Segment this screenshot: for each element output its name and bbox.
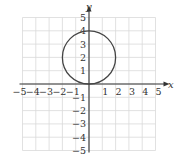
x-tick-label: 2 [116, 86, 122, 97]
x-tick-label: −3 [39, 86, 53, 97]
y-tick-label: −4 [72, 132, 86, 143]
x-tick-label: −5 [12, 86, 26, 97]
x-tick-label: 5 [155, 86, 161, 97]
x-tick-label: −4 [26, 86, 40, 97]
y-tick-label: −1 [72, 92, 86, 103]
y-tick-label: 1 [80, 65, 86, 76]
y-tick-label: 3 [80, 39, 86, 50]
y-tick-label: 2 [80, 52, 86, 63]
x-tick-label: 1 [102, 86, 108, 97]
coordinate-plane: −5−4−3−2−11234554321−1−2−3−4−5 x y [0, 0, 184, 161]
x-tick-label: 3 [129, 86, 135, 97]
y-tick-label: −5 [72, 145, 86, 156]
y-axis-label: y [85, 1, 92, 12]
y-tick-label: −2 [72, 105, 86, 116]
y-tick-label: −3 [72, 118, 86, 129]
axes [20, 6, 170, 153]
y-tick-label: 5 [80, 12, 86, 23]
x-axis-label: x [168, 79, 174, 90]
x-tick-label: −2 [52, 86, 66, 97]
x-tick-label: 4 [142, 86, 148, 97]
